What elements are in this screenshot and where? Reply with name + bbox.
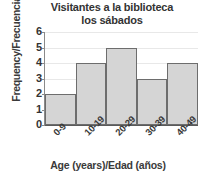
y-tick-mark [42, 48, 45, 49]
y-tick-label: 3 [12, 73, 42, 84]
plot-area: 0123456 [44, 32, 198, 126]
bar [106, 48, 137, 126]
gridline [45, 32, 198, 33]
y-tick-label: 0 [12, 119, 42, 130]
y-tick-mark [42, 63, 45, 64]
y-tick-label: 6 [12, 26, 42, 37]
y-tick-label: 1 [12, 104, 42, 115]
y-tick-mark [42, 32, 45, 33]
y-tick-label: 2 [12, 88, 42, 99]
chart-title-line-1: Visitantes a la biblioteca [18, 1, 206, 14]
chart-title-line-2: los sábados [18, 14, 206, 27]
y-tick-label: 5 [12, 42, 42, 53]
y-tick-mark [42, 79, 45, 80]
y-tick-label: 4 [12, 57, 42, 68]
chart-title: Visitantes a la biblioteca los sábados [18, 1, 206, 26]
histogram-chart: Visitantes a la biblioteca los sábados F… [0, 0, 211, 174]
x-axis-title: Age (years)/Edad (años) [10, 159, 206, 171]
y-tick-mark [42, 125, 45, 126]
